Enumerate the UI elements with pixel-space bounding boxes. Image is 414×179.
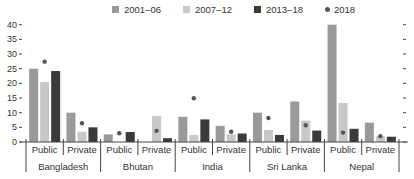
legend-swatch-icon <box>183 6 190 13</box>
bar <box>365 123 374 142</box>
bar <box>253 113 262 142</box>
legend-label: 2001–06 <box>124 4 161 15</box>
legend-item-2001-06: 2001–06 <box>112 4 161 15</box>
plot-area: 0510152025303540PublicPrivateBangladeshP… <box>0 0 414 179</box>
data-point-dot <box>117 131 121 135</box>
data-point-dot <box>154 129 158 133</box>
country-label: Bhutan <box>123 161 153 172</box>
bar <box>216 126 225 142</box>
y-tick-label: 0 <box>12 137 17 147</box>
sector-label: Private <box>67 144 97 155</box>
country-label: Nepal <box>349 161 374 172</box>
bar <box>40 82 49 142</box>
legend: 2001–06 2007–12 2013–18 2018 <box>112 4 355 15</box>
sector-label: Public <box>330 144 356 155</box>
data-point-dot <box>80 121 84 125</box>
bar <box>275 135 284 142</box>
y-tick-label: 25 <box>7 64 17 74</box>
country-label: India <box>202 161 223 172</box>
sector-label: Private <box>216 144 246 155</box>
data-point-dot <box>192 96 196 100</box>
legend-label: 2007–12 <box>195 4 232 15</box>
legend-item-2007-12: 2007–12 <box>183 4 232 15</box>
sector-label: Private <box>366 144 396 155</box>
bar <box>29 69 38 142</box>
legend-label: 2018 <box>334 4 355 15</box>
legend-item-2013-18: 2013–18 <box>254 4 303 15</box>
y-tick-label: 5 <box>12 122 17 132</box>
data-point-dot <box>266 116 270 120</box>
legend-label: 2013–18 <box>266 4 303 15</box>
bar <box>312 131 321 142</box>
bar <box>178 117 187 142</box>
legend-item-2018: 2018 <box>325 4 355 15</box>
bar <box>227 134 236 142</box>
bar <box>290 102 299 142</box>
country-label: Bangladesh <box>38 161 88 172</box>
chart-container: 2001–06 2007–12 2013–18 2018 05101520253… <box>0 0 414 179</box>
legend-dot-icon <box>325 7 330 12</box>
bar <box>163 138 172 142</box>
sector-label: Private <box>142 144 172 155</box>
bar <box>350 129 359 142</box>
bar <box>328 25 337 142</box>
y-tick-label: 30 <box>7 49 17 59</box>
data-point-dot <box>304 123 308 127</box>
sector-label: Public <box>106 144 132 155</box>
sector-label: Public <box>256 144 282 155</box>
bar <box>104 134 113 142</box>
y-tick-label: 35 <box>7 34 17 44</box>
country-label: Sri Lanka <box>267 161 308 172</box>
bar <box>66 113 75 142</box>
legend-swatch-icon <box>112 6 119 13</box>
bar <box>264 130 273 142</box>
y-tick-label: 20 <box>7 78 17 88</box>
bar <box>88 127 97 142</box>
legend-swatch-icon <box>254 6 261 13</box>
data-point-dot <box>378 134 382 138</box>
bar <box>77 132 86 142</box>
bar <box>51 71 60 142</box>
data-point-dot <box>341 130 345 134</box>
bar <box>126 132 135 142</box>
data-point-dot <box>42 59 46 63</box>
bar <box>200 119 209 142</box>
sector-label: Private <box>291 144 321 155</box>
bar <box>238 133 247 142</box>
y-tick-label: 10 <box>7 108 17 118</box>
bar <box>387 137 396 142</box>
sector-label: Public <box>32 144 58 155</box>
y-tick-label: 15 <box>7 93 17 103</box>
y-tick-label: 40 <box>7 20 17 30</box>
bar <box>189 135 198 142</box>
sector-label: Public <box>181 144 207 155</box>
bar <box>339 103 348 142</box>
data-point-dot <box>229 130 233 134</box>
